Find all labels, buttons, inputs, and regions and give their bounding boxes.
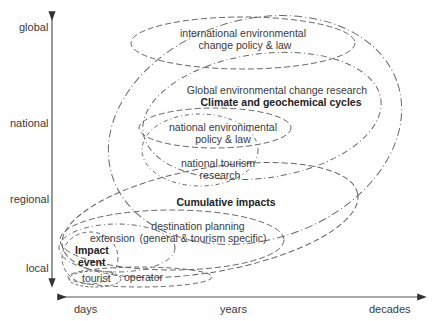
tourist-label: tourist [82, 272, 111, 284]
y-label-local: local [26, 262, 49, 274]
international-label-1: international environmental [180, 27, 306, 39]
x-label-days: days [74, 303, 97, 315]
global-research-ellipse [135, 38, 390, 194]
x-label-decades: decades [369, 303, 411, 315]
national-tourism-label-1: national tourism [181, 157, 255, 169]
climate-cycles-label: Climate and geochemical cycles [200, 96, 361, 108]
y-label-global: global [19, 21, 48, 33]
impact-event-label-1: Impact [75, 244, 109, 256]
destination-label-2: (general & tourism specific) [139, 232, 266, 244]
national-tourism-label-2: research [200, 169, 241, 181]
y-label-regional: regional [10, 193, 49, 205]
national-policy-label-2: policy & law [195, 133, 250, 145]
extension-label: extension [90, 232, 135, 244]
global-research-label: Global environmental change research [187, 84, 367, 96]
national-policy-label-1: national environimental [169, 121, 277, 133]
y-label-national: national [10, 117, 49, 129]
international-label-2: change policy & law [199, 39, 292, 51]
impact-event-label-2: event [78, 256, 105, 268]
x-label-years: years [220, 303, 247, 315]
destination-label-1: destination planning [151, 220, 244, 232]
cumulative-impacts-label: Cumulative impacts [176, 196, 275, 208]
operator-label: operator [124, 271, 163, 283]
